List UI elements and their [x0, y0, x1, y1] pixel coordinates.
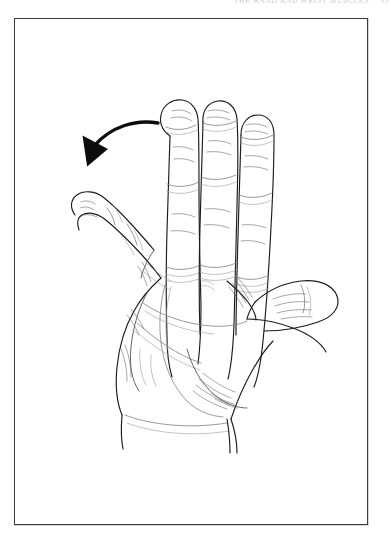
running-head-title: THE HAND AND WRIST MUSCLES — [234, 0, 369, 5]
scanned-book-page: THE HAND AND WRIST MUSCLES 95 — [0, 0, 391, 541]
running-head: THE HAND AND WRIST MUSCLES 95 — [0, 0, 391, 5]
index-finger — [160, 100, 201, 377]
abduction-arrow — [75, 122, 158, 170]
hand-illustration — [15, 19, 369, 526]
page-number: 95 — [381, 0, 389, 5]
thumb-web-space — [227, 278, 256, 320]
middle-finger — [199, 101, 238, 379]
little-finger — [71, 192, 161, 278]
figure-frame — [14, 18, 368, 525]
